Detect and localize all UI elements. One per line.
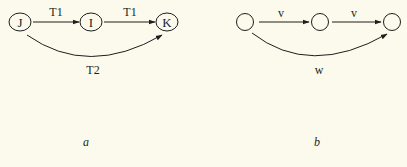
node-k-label: K — [162, 15, 172, 30]
edge-b1-b3-label: w — [315, 63, 324, 77]
caption-b: b — [314, 135, 320, 149]
edge-i-k-label: T1 — [123, 5, 136, 19]
node-k: K — [156, 13, 178, 31]
edge-j-k-curved: T2 — [27, 35, 162, 77]
edge-b1-b3-curved: w — [252, 33, 387, 77]
node-j-label: J — [17, 15, 22, 30]
node-i: I — [80, 13, 102, 31]
caption-a: a — [83, 135, 89, 149]
edge-b2-b3: v — [332, 6, 381, 22]
diagram-a: J I K T1 T1 T2 a — [9, 5, 178, 149]
diagram-canvas: J I K T1 T1 T2 a v — [0, 0, 407, 167]
edge-b1-b2-label: v — [278, 6, 284, 20]
node-j: J — [9, 13, 31, 31]
edge-j-i-label: T1 — [49, 5, 62, 19]
node-b3 — [384, 14, 401, 31]
node-b2 — [312, 14, 329, 31]
edge-j-k-label: T2 — [86, 63, 99, 77]
edge-j-i: T1 — [33, 5, 79, 22]
diagram-b: v v w b — [237, 6, 401, 149]
node-i-label: I — [89, 15, 93, 30]
edge-b1-b2: v — [259, 6, 309, 22]
edge-i-k: T1 — [104, 5, 155, 22]
edge-b2-b3-label: v — [351, 6, 357, 20]
node-b1 — [237, 14, 254, 31]
